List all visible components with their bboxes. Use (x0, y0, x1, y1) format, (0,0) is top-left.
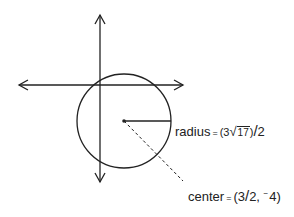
center-y-value: 4) (269, 189, 281, 204)
center-label: center=(3/2, −4) (188, 188, 281, 203)
diagram-canvas (0, 0, 294, 217)
center-open: (3 (233, 189, 245, 204)
sqrt-value: 17 (237, 126, 250, 138)
sqrt-icon: √ (229, 124, 236, 139)
radius-label: radius=(3√17)/2 (175, 123, 265, 138)
radius-denominator: 2 (258, 124, 265, 139)
center-label-name: center (188, 189, 224, 204)
negative-sign: − (264, 189, 269, 198)
radius-equals: = (212, 128, 217, 138)
radius-label-name: radius (175, 124, 210, 139)
y-axis (95, 15, 105, 182)
center-x-denominator: 2, (249, 189, 260, 204)
center-equals: = (226, 193, 231, 203)
sqrt-expression: √17 (229, 125, 249, 138)
radius-open: (3 (220, 126, 230, 138)
